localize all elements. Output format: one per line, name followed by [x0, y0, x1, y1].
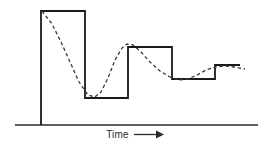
- step-response-figure: Time: [0, 0, 270, 149]
- caption-row: Time: [106, 129, 164, 140]
- plot-canvas: [0, 0, 270, 149]
- right-arrow-icon: [134, 130, 164, 139]
- process-response-curve: [42, 11, 245, 97]
- x-axis-label: Time: [106, 129, 129, 140]
- x-axis-caption: Time: [0, 129, 270, 140]
- curves-group: [41, 11, 245, 125]
